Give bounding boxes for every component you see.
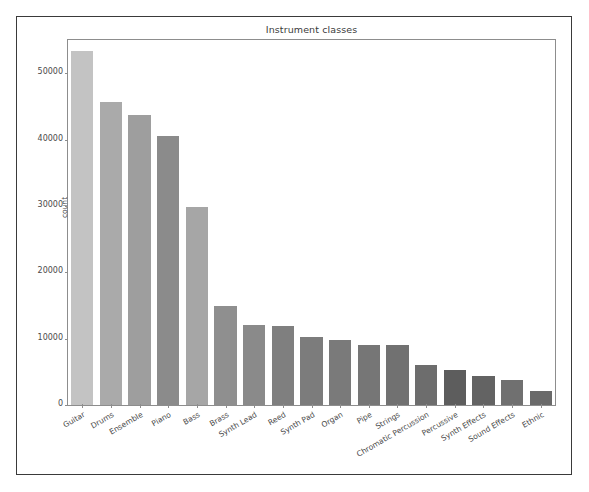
x-axis-tick-mark — [197, 404, 198, 408]
x-axis-tick-mark — [254, 404, 255, 408]
x-axis-tick-mark — [111, 404, 112, 408]
x-axis-tick-mark — [541, 404, 542, 408]
bar[interactable] — [415, 365, 437, 405]
bar[interactable] — [300, 337, 322, 405]
x-axis-tick-mark — [455, 404, 456, 408]
x-axis-tick-mark — [226, 404, 227, 408]
chart-title: Instrument classes — [67, 24, 556, 35]
bar[interactable] — [243, 325, 265, 405]
bar[interactable] — [472, 376, 494, 405]
bar[interactable] — [358, 345, 380, 405]
x-axis-tick-mark — [512, 404, 513, 408]
y-axis-tick-label: 50000 — [3, 67, 63, 76]
bar[interactable] — [272, 326, 294, 405]
y-axis-tick-label: 10000 — [3, 333, 63, 342]
bar[interactable] — [329, 340, 351, 405]
y-axis-tick-label: 40000 — [3, 134, 63, 143]
x-axis-tick-mark — [397, 404, 398, 408]
bar[interactable] — [100, 102, 122, 405]
bar[interactable] — [530, 391, 552, 405]
x-axis-tick-mark — [82, 404, 83, 408]
x-axis-tick-mark — [312, 404, 313, 408]
bar[interactable] — [444, 370, 466, 405]
bars-layer — [68, 40, 555, 405]
plot-area: count 01000020000300004000050000 GuitarD… — [67, 39, 556, 406]
x-axis-tick-mark — [283, 404, 284, 408]
bar[interactable] — [128, 115, 150, 405]
bar[interactable] — [214, 306, 236, 405]
bar[interactable] — [501, 380, 523, 405]
x-axis-tick-mark — [140, 404, 141, 408]
bar[interactable] — [71, 51, 93, 405]
x-axis-tick-mark — [426, 404, 427, 408]
bar[interactable] — [386, 345, 408, 405]
y-axis-tick-label: 0 — [3, 399, 63, 408]
x-axis-tick-mark — [340, 404, 341, 408]
x-axis-tick-mark — [369, 404, 370, 408]
x-axis-tick-mark — [483, 404, 484, 408]
figure-canvas: Instrument classes count 010000200003000… — [0, 0, 589, 492]
x-axis-tick-mark — [168, 404, 169, 408]
bar[interactable] — [157, 136, 179, 405]
y-axis-tick-mark — [65, 405, 69, 406]
y-axis-tick-label: 30000 — [3, 200, 63, 209]
y-axis-tick-label: 20000 — [3, 266, 63, 275]
bar[interactable] — [186, 207, 208, 405]
